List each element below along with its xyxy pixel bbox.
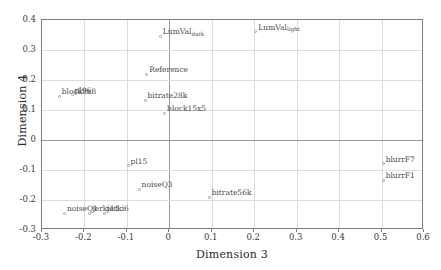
data-point-marker [58, 95, 61, 98]
x-gridline [297, 20, 298, 228]
x-axis-label: Dimension 3 [41, 248, 423, 261]
y-tick-label: -0.3 [20, 225, 36, 234]
data-point-label: pl15 [131, 158, 148, 166]
x-tick-label: 0.3 [289, 233, 303, 242]
data-point-marker [144, 99, 147, 102]
data-point-marker [63, 212, 66, 215]
data-point-label: noiseQ3 [142, 181, 173, 189]
y-zero-line [42, 140, 422, 141]
x-tick-label: 0.1 [204, 233, 218, 242]
x-tick-label: 0.6 [416, 233, 430, 242]
data-point-marker [103, 212, 106, 215]
plot-area: LumValdarkLumVallightReferenceblock8x8pl… [41, 19, 423, 229]
x-gridline [254, 20, 255, 228]
x-tick-label: 0.5 [374, 233, 388, 242]
scatter-chart: LumValdarkLumVallightReferenceblock8x8pl… [0, 0, 441, 270]
y-gridline [42, 110, 422, 111]
y-gridline [42, 200, 422, 201]
x-gridline [382, 20, 383, 228]
data-point-label: blurrF1 [386, 172, 415, 180]
y-axis-label: Dimension 4 [16, 41, 29, 181]
x-tick-label: -0.1 [118, 233, 134, 242]
data-point-marker [159, 35, 162, 38]
data-point-marker [382, 162, 385, 165]
data-point-marker [71, 93, 74, 96]
x-tick-label: 0.2 [246, 233, 260, 242]
data-point-marker [138, 188, 141, 191]
y-tick-label: 0.4 [22, 15, 36, 24]
x-tick-label: 0 [166, 233, 171, 242]
data-point-label: pl96 [75, 87, 92, 95]
data-point-label: Reference [149, 66, 188, 74]
y-gridline [42, 170, 422, 171]
data-point-label: block15x5 [167, 105, 206, 113]
data-point-marker [163, 112, 166, 115]
y-tick-label: 0 [31, 135, 36, 144]
y-tick-label: -0.2 [20, 195, 36, 204]
x-tick-label: -0.3 [33, 233, 49, 242]
x-gridline [127, 20, 128, 228]
data-point-label: jerki6 [107, 205, 129, 213]
x-tick-label: -0.2 [75, 233, 91, 242]
y-gridline [42, 80, 422, 81]
x-tick-label: 0.4 [331, 233, 345, 242]
data-point-marker [145, 73, 148, 76]
data-point-marker [208, 196, 211, 199]
x-gridline [339, 20, 340, 228]
data-point-label: LumValdark [163, 28, 204, 36]
x-zero-line [169, 20, 170, 228]
data-point-marker [382, 179, 385, 182]
data-point-label: bitrate28k [148, 92, 188, 100]
x-gridline [84, 20, 85, 228]
y-gridline [42, 50, 422, 51]
data-point-marker [254, 30, 257, 33]
data-point-label: bitrate56k [212, 189, 252, 197]
data-point-label: blurrF7 [386, 156, 415, 164]
data-point-label: LumVallight [258, 24, 299, 32]
